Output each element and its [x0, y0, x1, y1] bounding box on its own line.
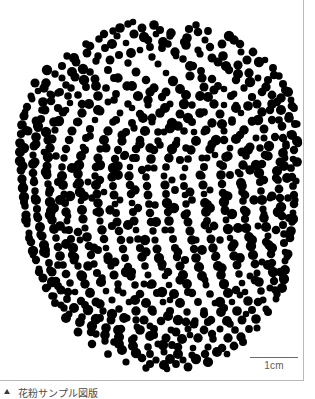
dot-scatter-svg — [0, 0, 304, 381]
scale-bar-label: 1cm — [250, 360, 298, 372]
scale-bar-line — [250, 357, 298, 358]
figure-panel: 1cm — [0, 0, 304, 381]
figure-caption: 花粉サンプル図版 — [0, 383, 315, 399]
caption-text: 花粉サンプル図版 — [18, 388, 98, 399]
dot-scatter-plot — [0, 0, 304, 381]
triangle-bullet-icon — [4, 389, 10, 394]
scale-bar: 1cm — [250, 353, 298, 377]
